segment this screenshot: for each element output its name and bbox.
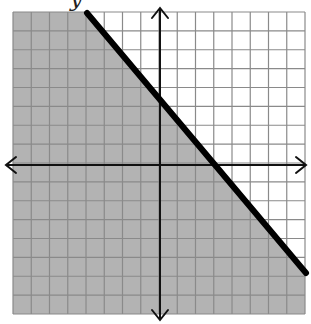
coordinate-plane	[0, 0, 311, 324]
